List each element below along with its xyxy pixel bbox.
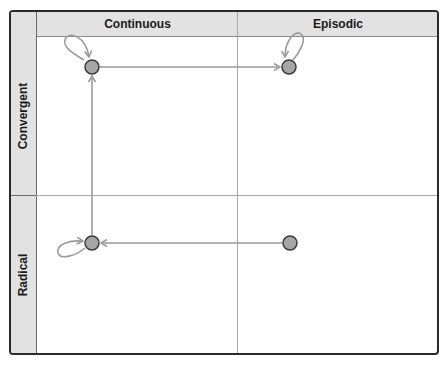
node-convergent-episodic [282,60,296,74]
transition-diagram [0,0,448,367]
self-loop-radical-continuous [58,241,85,257]
node-radical-continuous [85,236,99,250]
self-loop-convergent-episodic [285,33,303,60]
node-radical-episodic [283,236,297,250]
self-loop-convergent-continuous [65,35,89,60]
node-convergent-continuous [85,60,99,74]
